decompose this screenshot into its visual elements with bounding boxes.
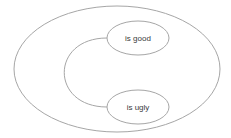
- diagram-canvas: is good is ugly: [0, 0, 231, 138]
- connector-arc-good-ugly[interactable]: [64, 38, 107, 107]
- node-is-good-label: is good: [125, 34, 151, 43]
- node-is-good[interactable]: is good: [107, 21, 169, 55]
- node-is-ugly[interactable]: is ugly: [107, 90, 169, 124]
- node-is-ugly-label: is ugly: [127, 103, 150, 112]
